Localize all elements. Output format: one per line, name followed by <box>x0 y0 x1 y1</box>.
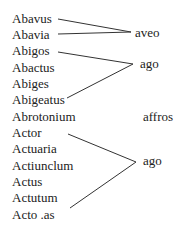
connector-line <box>68 134 136 162</box>
source-word: Actus <box>12 174 42 189</box>
source-word: Abavia <box>12 27 50 42</box>
source-word: Actutum <box>12 190 58 205</box>
source-word: Abiges <box>12 76 49 91</box>
source-word: Actor <box>12 125 42 140</box>
connector-line <box>58 32 131 34</box>
source-word: Abrotonium <box>12 109 76 124</box>
connector-line <box>58 52 133 64</box>
source-word: Acto .as <box>12 207 55 222</box>
source-word: Actiunclum <box>12 158 73 173</box>
root-word: ago <box>143 153 162 168</box>
source-word: Abigos <box>12 43 50 58</box>
root-word: aveo <box>135 25 160 40</box>
source-word: Abigeatus <box>12 92 65 107</box>
source-word: Abavus <box>12 11 52 26</box>
connector-line <box>70 162 136 208</box>
root-word: affros <box>143 109 173 124</box>
source-word: Actuaria <box>12 141 57 156</box>
connector-line <box>67 64 133 98</box>
root-word: ago <box>140 56 159 71</box>
connector-line <box>58 19 131 32</box>
source-word: Abactus <box>12 60 55 75</box>
